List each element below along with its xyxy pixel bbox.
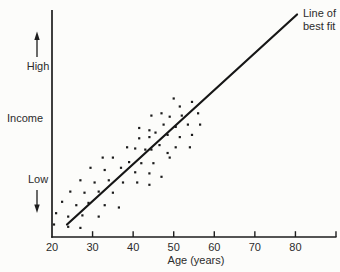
y-high-label: High — [27, 60, 50, 73]
best-fit-line-label: Line of best fit — [303, 7, 336, 33]
best-fit-line-label-line1: Line of — [303, 7, 336, 20]
scatter-point — [150, 115, 152, 117]
scatter-point — [53, 223, 55, 225]
scatter-point — [118, 206, 120, 208]
scatter-point — [134, 171, 136, 173]
scatter-point — [134, 147, 136, 149]
scatter-point — [148, 136, 150, 138]
scatter-points — [53, 97, 201, 229]
y-low-label: Low — [28, 173, 48, 186]
scatter-point — [175, 146, 177, 148]
scatter-point — [108, 179, 110, 181]
x-tick-label: 50 — [168, 241, 180, 253]
scatter-point — [79, 179, 81, 181]
scatter-point — [181, 115, 183, 117]
scatter-point — [120, 167, 122, 169]
scatter-point — [69, 191, 71, 193]
scatter-point — [140, 162, 142, 164]
scatter-point — [112, 192, 114, 194]
scatter-point — [83, 192, 85, 194]
x-tick-label: 60 — [208, 241, 220, 253]
scatter-point — [138, 137, 140, 139]
scatter-point — [169, 116, 171, 118]
x-tick-label: 30 — [86, 241, 98, 253]
scatter-point — [152, 162, 154, 164]
scatter-point — [191, 101, 193, 103]
scatter-point — [112, 157, 114, 159]
up-arrow-icon — [34, 32, 39, 58]
scatter-point — [167, 152, 169, 154]
scatter-point — [169, 157, 171, 159]
scatter-point — [144, 149, 146, 151]
scatter-point — [75, 204, 77, 206]
axes — [51, 10, 336, 238]
scatter-point — [179, 105, 181, 107]
best-fit-line-label-line2: best fit — [303, 20, 336, 33]
scatter-point — [136, 181, 138, 183]
x-tick-label: 80 — [289, 241, 301, 253]
scatter-point — [179, 136, 181, 138]
scatter-point — [98, 216, 100, 218]
y-axis-title: Income — [7, 112, 43, 125]
scatter-point — [67, 226, 69, 228]
scatter-point — [160, 112, 162, 114]
scatter-point — [81, 214, 83, 216]
scatter-point — [55, 212, 57, 214]
scatter-point — [191, 134, 193, 136]
scatter-point — [104, 169, 106, 171]
scatter-point — [61, 201, 63, 203]
scatter-point — [154, 132, 156, 134]
scatter-point — [128, 161, 130, 163]
scatter-point — [173, 97, 175, 99]
scatter-point — [94, 181, 96, 183]
chart-canvas: 20304050607080 — [0, 0, 340, 272]
scatter-point — [163, 124, 165, 126]
x-axis-ticks: 20304050607080 — [46, 231, 336, 253]
scatter-point — [102, 157, 104, 159]
scatter-point — [104, 204, 106, 206]
x-tick-label: 20 — [46, 241, 58, 253]
scatter-point — [126, 146, 128, 148]
scatter-point — [199, 124, 201, 126]
scatter-point — [98, 191, 100, 193]
scatter-point — [197, 112, 199, 114]
scatter-point — [148, 129, 150, 131]
scatter-figure: 20304050607080 High Income Low Age (year… — [0, 0, 340, 272]
best-fit-line — [67, 15, 297, 225]
scatter-point — [79, 227, 81, 229]
scatter-point — [148, 184, 150, 186]
scatter-point — [189, 146, 191, 148]
scatter-point — [148, 172, 150, 174]
scatter-point — [122, 181, 124, 183]
x-tick-label: 70 — [249, 241, 261, 253]
down-arrow-icon — [34, 190, 39, 213]
scatter-point — [158, 144, 160, 146]
scatter-point — [187, 124, 189, 126]
x-tick-label: 40 — [127, 241, 139, 253]
scatter-point — [138, 127, 140, 129]
scatter-point — [67, 216, 69, 218]
x-axis-title: Age (years) — [168, 254, 225, 267]
scatter-point — [89, 167, 91, 169]
scatter-point — [160, 176, 162, 178]
